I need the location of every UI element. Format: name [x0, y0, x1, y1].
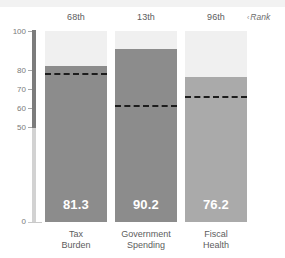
category-label-line-2: Spending — [109, 240, 183, 251]
y-axis-tick-label-60: 60 — [4, 105, 26, 113]
category-label-line-2: Burden — [39, 240, 113, 251]
category-label-line-1: Fiscal — [179, 229, 253, 240]
category-label-line-2: Health — [179, 240, 253, 251]
plot-area: 100 80 70 60 50 0 81.3 Tax Burden — [0, 0, 285, 258]
y-axis-rail-lower — [32, 128, 36, 222]
y-axis-tick-mark-0 — [28, 222, 42, 223]
bar-group-tax-burden[interactable]: 81.3 Tax Burden — [45, 0, 107, 258]
category-label-line-1: Government — [109, 229, 183, 240]
bar-value-label-tax-burden: 81.3 — [45, 197, 107, 212]
y-axis-tick-label-100: 100 — [4, 28, 26, 36]
category-label-government-spending: Government Spending — [109, 229, 183, 251]
bar-group-government-spending[interactable]: 90.2 Government Spending — [115, 0, 177, 258]
bar-group-fiscal-health[interactable]: 76.2 Fiscal Health — [185, 0, 247, 258]
economic-freedom-subcategory-chart: 68th 13th 96th ‹Rank 100 80 70 60 50 0 8… — [0, 0, 285, 258]
average-reference-line-government-spending — [115, 105, 177, 107]
average-reference-line-fiscal-health — [185, 96, 247, 98]
y-axis-tick-label-0: 0 — [4, 218, 26, 226]
average-reference-line-tax-burden — [45, 73, 107, 75]
y-axis-tick-label-50: 50 — [4, 124, 26, 132]
y-axis-tick-label-70: 70 — [4, 86, 26, 94]
bar-value-label-fiscal-health: 76.2 — [185, 197, 247, 212]
category-label-fiscal-health: Fiscal Health — [179, 229, 253, 251]
category-label-tax-burden: Tax Burden — [39, 229, 113, 251]
category-label-line-1: Tax — [39, 229, 113, 240]
y-axis-tick-label-80: 80 — [4, 67, 26, 75]
bar-value-label-government-spending: 90.2 — [115, 197, 177, 212]
y-axis-rail-upper — [32, 30, 36, 128]
